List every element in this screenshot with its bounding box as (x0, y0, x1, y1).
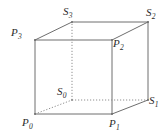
vertex-label-base: P (11, 26, 18, 38)
vertex-label-s3: S3 (63, 6, 72, 17)
edge-p1-s1 (112, 100, 148, 114)
vertex-dot-p1 (111, 113, 113, 115)
vertex-label-base: P (109, 117, 116, 129)
vertex-label-subscript: 1 (116, 123, 120, 132)
vertex-label-base: S (149, 94, 155, 106)
vertex-dot-s0 (71, 99, 73, 101)
vertex-label-subscript: 2 (152, 12, 156, 21)
vertex-dot-p3 (34, 39, 36, 41)
vertex-label-s0: S0 (57, 86, 66, 97)
vertex-label-s1: S1 (149, 95, 158, 106)
vertex-label-subscript: 3 (69, 11, 73, 20)
vertex-dot-group (34, 21, 149, 115)
vertex-label-base: P (22, 116, 29, 128)
vertex-label-subscript: 1 (155, 100, 159, 109)
vertex-label-p1: P1 (109, 118, 119, 129)
vertex-label-subscript: 0 (29, 122, 33, 131)
cube-diagram-figure: P0P1P2P3S0S1S2S3 (0, 0, 168, 136)
vertex-label-p0: P0 (22, 117, 32, 128)
vertex-dot-s2 (147, 21, 149, 23)
vertex-label-p2: P2 (113, 38, 123, 49)
vertex-dot-s3 (71, 21, 73, 23)
vertex-dot-p0 (34, 113, 36, 115)
vertex-label-subscript: 0 (63, 91, 67, 100)
vertex-label-base: S (57, 85, 63, 97)
vertex-label-subscript: 3 (18, 32, 22, 41)
vertex-label-base: S (146, 6, 152, 18)
vertex-label-p3: P3 (11, 27, 21, 38)
vertex-label-base: P (113, 37, 120, 49)
solid-edge-group (35, 22, 148, 114)
edge-p3-s3 (35, 22, 72, 40)
hidden-edge-group (35, 22, 148, 114)
vertex-label-s2: S2 (146, 7, 155, 18)
vertex-label-subscript: 2 (120, 43, 124, 52)
vertex-label-base: S (63, 5, 69, 17)
edge-p0-s0-hidden (35, 100, 72, 114)
